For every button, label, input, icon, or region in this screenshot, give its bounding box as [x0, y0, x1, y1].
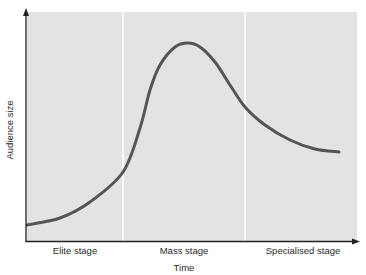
audience-size-chart: Elite stage Mass stage Specialised stage… — [0, 0, 366, 275]
y-axis-title: Audience size — [4, 100, 15, 159]
category-label-mass: Mass stage — [160, 245, 209, 256]
category-label-specialised: Specialised stage — [266, 245, 340, 256]
plot-background — [27, 12, 357, 241]
category-label-elite: Elite stage — [53, 245, 97, 256]
x-axis-title: Time — [174, 262, 195, 273]
